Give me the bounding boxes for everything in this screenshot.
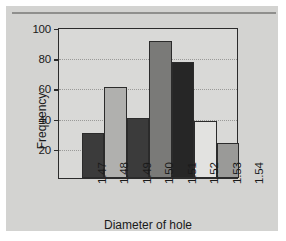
x-tick-label: 1.53 bbox=[231, 162, 243, 184]
y-tick-label: 100 bbox=[32, 23, 51, 35]
x-tick-label: 1.50 bbox=[163, 162, 175, 184]
bar bbox=[172, 62, 195, 178]
x-axis-title: Diameter of hole bbox=[58, 218, 238, 232]
x-tick-label: 1.51 bbox=[186, 162, 198, 184]
x-tick-label: 1.52 bbox=[208, 162, 220, 184]
bar-series bbox=[59, 29, 237, 178]
y-tick-label: 20 bbox=[39, 144, 51, 156]
x-tick-label: 1.49 bbox=[141, 162, 153, 184]
x-tick-label: 1.47 bbox=[96, 162, 108, 184]
y-tick-label: 60 bbox=[39, 83, 51, 95]
y-tick-label: 40 bbox=[39, 114, 51, 126]
x-tick-label: 1.54 bbox=[253, 162, 265, 184]
bar bbox=[149, 41, 172, 178]
chart-figure: Frequency 20406080100 1.471.481.491.501.… bbox=[0, 0, 286, 241]
x-tick-label: 1.48 bbox=[118, 162, 130, 184]
plot-area: 20406080100 bbox=[58, 28, 238, 179]
y-tick-label: 80 bbox=[39, 53, 51, 65]
chart-screenshot: Frequency 20406080100 1.471.481.491.501.… bbox=[0, 0, 286, 241]
